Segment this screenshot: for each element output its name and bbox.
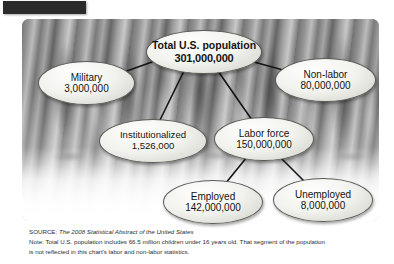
node-non-labor: Non-labor 80,000,000 <box>275 58 376 102</box>
node-employed: Employed 142,000,000 <box>163 180 263 224</box>
footnotes: SOURCE: The 2008 Statistical Abstract of… <box>29 227 329 256</box>
node-total-value: 301,000,000 <box>175 52 234 64</box>
node-non-labor-label: Non-labor <box>304 69 348 80</box>
top-accent-bar <box>3 1 86 14</box>
node-unemployed-label: Unemployed <box>295 189 351 200</box>
node-total-label: Total U.S. population <box>152 40 256 52</box>
node-labor-force: Labor force 150,000,000 <box>214 117 314 161</box>
node-total-us-population: Total U.S. population 301,000,000 <box>146 30 262 74</box>
note-text: Note: Total U.S. population includes 66.… <box>29 237 329 256</box>
node-unemployed: Unemployed 8,000,000 <box>273 178 373 222</box>
node-institutionalized: Institutionalized 1,526,000 <box>99 119 207 163</box>
node-employed-value: 142,000,000 <box>185 202 241 213</box>
node-employed-label: Employed <box>191 191 235 202</box>
node-military: Military 3,000,000 <box>38 61 135 105</box>
source-line: SOURCE: The 2008 Statistical Abstract of… <box>29 227 329 237</box>
node-military-label: Military <box>71 72 103 83</box>
node-institutionalized-value: 1,526,000 <box>132 141 175 152</box>
node-labor-force-label: Labor force <box>239 128 290 139</box>
node-military-value: 3,000,000 <box>64 83 109 94</box>
source-label: SOURCE: <box>29 228 57 235</box>
node-labor-force-value: 150,000,000 <box>236 139 292 150</box>
node-non-labor-value: 80,000,000 <box>300 80 350 91</box>
source-title: The 2008 Statistical Abstract of the Uni… <box>59 228 194 235</box>
node-unemployed-value: 8,000,000 <box>301 200 346 211</box>
